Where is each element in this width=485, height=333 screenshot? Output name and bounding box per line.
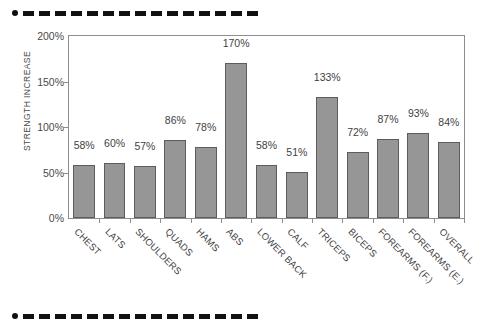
x-axis-tick-mark xyxy=(221,219,222,223)
x-axis-tick-label: CALF xyxy=(285,226,311,252)
bar[interactable] xyxy=(377,139,399,218)
bar-value-label: 86% xyxy=(165,114,186,127)
bar[interactable] xyxy=(407,133,429,218)
bar-group: 72% xyxy=(342,36,372,218)
bullet-dot-icon xyxy=(12,313,18,319)
x-axis-tick-label: ABS xyxy=(224,226,246,248)
bar[interactable] xyxy=(164,140,186,218)
x-axis-tick-mark xyxy=(130,219,131,223)
y-axis-tick-label: 50% xyxy=(4,167,64,179)
x-axis-tick-mark xyxy=(251,219,252,223)
bar-value-label: 93% xyxy=(408,107,429,120)
bar[interactable] xyxy=(316,97,338,218)
x-axis-tick-mark xyxy=(403,219,404,223)
dashed-line-icon xyxy=(23,314,263,319)
bar-group: 58% xyxy=(251,36,281,218)
bar-value-label: 87% xyxy=(378,113,399,126)
bar[interactable] xyxy=(134,166,156,218)
x-axis-tick-mark xyxy=(282,219,283,223)
bar-value-label: 51% xyxy=(286,146,307,159)
y-axis-title: STRENGTH INCREASE xyxy=(22,26,32,176)
x-axis-tick-mark xyxy=(191,219,192,223)
bar[interactable] xyxy=(347,152,369,218)
bar-value-label: 58% xyxy=(74,139,95,152)
bar[interactable] xyxy=(438,142,460,218)
bar-group: 170% xyxy=(221,36,251,218)
bar-group: 57% xyxy=(130,36,160,218)
bar-value-label: 170% xyxy=(223,37,250,50)
bar-group: 86% xyxy=(160,36,190,218)
x-axis-tick-mark xyxy=(464,219,465,223)
bar-group: 84% xyxy=(434,36,464,218)
bar[interactable] xyxy=(225,63,247,218)
bar-series: 58%60%57%86%78%170%58%51%133%72%87%93%84… xyxy=(69,36,464,218)
bottom-decorative-rule xyxy=(12,313,263,319)
x-axis-tick-mark xyxy=(99,219,100,223)
bar-value-label: 84% xyxy=(438,116,459,129)
x-axis-tick-mark xyxy=(434,219,435,223)
bar-group: 133% xyxy=(312,36,342,218)
bar-value-label: 58% xyxy=(256,139,277,152)
x-axis-tick-mark xyxy=(160,219,161,223)
x-axis-tick-mark xyxy=(342,219,343,223)
x-axis-tick-label: LATS xyxy=(103,226,128,251)
bar-chart: STRENGTH INCREASE 0%50%100%150%200% 58%6… xyxy=(0,28,485,313)
bar-group: 78% xyxy=(191,36,221,218)
y-axis-tick-label: 100% xyxy=(4,121,64,133)
bar-value-label: 72% xyxy=(347,126,368,139)
bar-value-label: 78% xyxy=(195,121,216,134)
bar[interactable] xyxy=(104,163,126,218)
x-axis-tick-label: CHEST xyxy=(72,226,103,257)
bar-group: 58% xyxy=(69,36,99,218)
bar-group: 87% xyxy=(373,36,403,218)
bar-group: 60% xyxy=(99,36,129,218)
bar-group: 51% xyxy=(282,36,312,218)
bar[interactable] xyxy=(195,147,217,218)
x-axis-tick-label: FOREARMS (F.) xyxy=(376,226,435,285)
y-axis-tick-label: 0% xyxy=(4,212,64,224)
y-axis-tick-label: 150% xyxy=(4,76,64,88)
dashed-line-icon xyxy=(23,11,263,16)
x-axis-tick-label: FOREARMS (E.) xyxy=(407,226,467,286)
y-axis-tick-label: 200% xyxy=(4,30,64,42)
x-axis-tick-mark xyxy=(312,219,313,223)
bar[interactable] xyxy=(286,172,308,218)
top-decorative-rule xyxy=(12,10,263,16)
bar-value-label: 57% xyxy=(134,140,155,153)
bar[interactable] xyxy=(256,165,278,218)
bar[interactable] xyxy=(73,165,95,218)
bullet-dot-icon xyxy=(12,10,18,16)
x-axis-tick-label: HAMS xyxy=(194,226,222,254)
bar-group: 93% xyxy=(403,36,433,218)
bar-value-label: 133% xyxy=(314,71,341,84)
bar-value-label: 60% xyxy=(104,137,125,150)
x-axis-tick-mark xyxy=(373,219,374,223)
